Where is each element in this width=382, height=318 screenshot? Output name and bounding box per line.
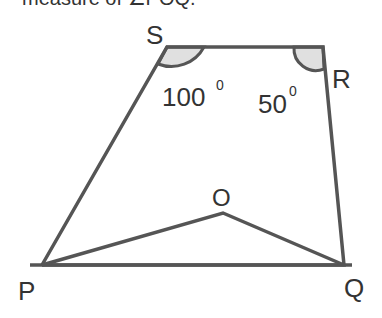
label-r: R xyxy=(332,64,351,94)
angle-arc-r xyxy=(294,47,324,71)
angle-s-degree: 0 xyxy=(216,77,224,93)
quadrilateral-figure: S R P Q O 100 0 50 0 xyxy=(0,0,382,318)
angle-r-value: 50 xyxy=(258,89,287,119)
quadrilateral-pqrs xyxy=(42,47,344,265)
diagram-canvas: measure of ∠POQ. S R P Q O 100 0 50 0 xyxy=(0,0,382,318)
angle-s-value: 100 xyxy=(162,82,205,112)
angle-r-degree: 0 xyxy=(289,83,297,99)
label-q: Q xyxy=(344,273,364,303)
label-p: P xyxy=(18,276,35,306)
triangle-poq xyxy=(42,213,344,265)
label-s: S xyxy=(146,20,163,50)
label-o: O xyxy=(212,184,231,211)
